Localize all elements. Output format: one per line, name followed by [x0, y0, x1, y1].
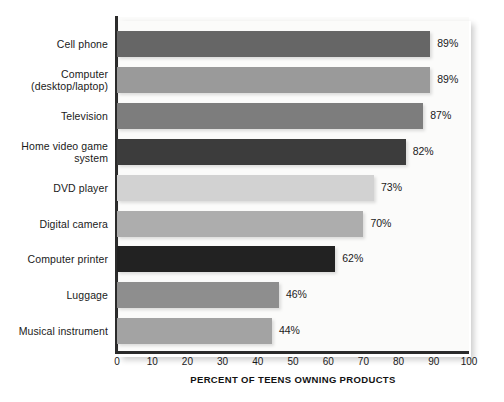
bar-row: 89%: [117, 67, 469, 93]
x-tick-label: 50: [287, 356, 298, 368]
bar-row: 62%: [117, 246, 469, 272]
category-label-line: DVD player: [0, 182, 108, 194]
bar-row: 82%: [117, 139, 469, 165]
category-label: Computer(desktop/laptop): [0, 68, 108, 92]
category-axis-labels: Cell phoneComputer(desktop/laptop)Televi…: [0, 17, 112, 353]
x-axis-title: PERCENT OF TEENS OWNING PRODUCTS: [117, 374, 469, 385]
category-label: Luggage: [0, 289, 108, 301]
bar-value-label: 46%: [286, 288, 307, 301]
bar: [117, 211, 363, 237]
bar-value-label: 44%: [279, 324, 300, 337]
x-tick-label: 60: [323, 356, 334, 368]
x-tick-label: 70: [358, 356, 369, 368]
bar-row: 87%: [117, 103, 469, 129]
category-label: Home video gamesystem: [0, 140, 108, 164]
bar-row: 73%: [117, 175, 469, 201]
x-tick-label: 40: [252, 356, 263, 368]
bar-value-label: 87%: [430, 109, 451, 122]
bar: [117, 175, 374, 201]
bar: [117, 67, 430, 93]
bar-value-label: 70%: [370, 217, 391, 230]
bar-value-label: 89%: [437, 37, 458, 50]
category-label-line: Home video game: [0, 140, 108, 152]
x-tick-label: 10: [147, 356, 158, 368]
x-tick-label: 20: [182, 356, 193, 368]
category-label: Computer printer: [0, 253, 108, 265]
category-label-line: system: [0, 152, 108, 164]
category-label: Television: [0, 110, 108, 122]
bar-value-label: 73%: [381, 181, 402, 194]
bar-row: 44%: [117, 318, 469, 344]
bar: [117, 31, 430, 57]
bar: [117, 318, 272, 344]
category-label-line: Luggage: [0, 289, 108, 301]
bar-value-label: 82%: [413, 145, 434, 158]
bar-value-label: 62%: [342, 252, 363, 265]
bar-row: 46%: [117, 282, 469, 308]
bar: [117, 139, 406, 165]
bar-chart-figure: Cell phoneComputer(desktop/laptop)Televi…: [0, 0, 504, 402]
bar-value-label: 89%: [437, 73, 458, 86]
category-label-line: Cell phone: [0, 38, 108, 50]
category-label-line: Computer printer: [0, 253, 108, 265]
category-label: DVD player: [0, 182, 108, 194]
x-tick-label: 90: [428, 356, 439, 368]
bar-row: 70%: [117, 211, 469, 237]
bar: [117, 246, 335, 272]
x-tick-label: 80: [393, 356, 404, 368]
x-tick-label: 100: [461, 356, 478, 368]
x-tick-label: 30: [217, 356, 228, 368]
category-label-line: Digital camera: [0, 218, 108, 230]
category-label: Digital camera: [0, 218, 108, 230]
category-label-line: (desktop/laptop): [0, 80, 108, 92]
bar-row: 89%: [117, 31, 469, 57]
category-label-line: Television: [0, 110, 108, 122]
category-label: Cell phone: [0, 38, 108, 50]
x-tick-label: 0: [114, 356, 120, 368]
category-label-line: Musical instrument: [0, 325, 108, 337]
x-axis-tick-labels: 0102030405060708090100: [117, 356, 469, 370]
category-label-line: Computer: [0, 68, 108, 80]
bars-layer: 89%89%87%82%73%70%62%46%44%: [117, 17, 469, 353]
bar: [117, 103, 423, 129]
category-label: Musical instrument: [0, 325, 108, 337]
bar: [117, 282, 279, 308]
